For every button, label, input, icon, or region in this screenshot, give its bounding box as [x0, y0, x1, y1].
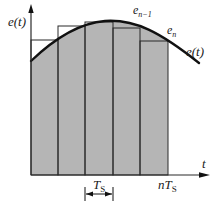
- integration-diagram: e(t) t e(t) en−1 en TS nTS: [0, 0, 221, 212]
- y-axis-arrow-icon: [28, 4, 33, 13]
- period-label: TS: [93, 177, 105, 194]
- x-axis-arrow-icon: [199, 172, 210, 177]
- x-axis-label: t: [202, 156, 206, 171]
- right-arrowhead-icon: [105, 192, 112, 197]
- curve-label: e(t): [186, 44, 204, 59]
- end-time-label: nTS: [158, 177, 177, 194]
- area-under-curve: [31, 0, 168, 175]
- left-arrowhead-icon: [86, 192, 93, 197]
- sample-label-e-n-minus-1: en−1: [133, 3, 152, 19]
- sample-label-e-n: en: [167, 23, 176, 39]
- y-axis-label: e(t): [8, 14, 26, 29]
